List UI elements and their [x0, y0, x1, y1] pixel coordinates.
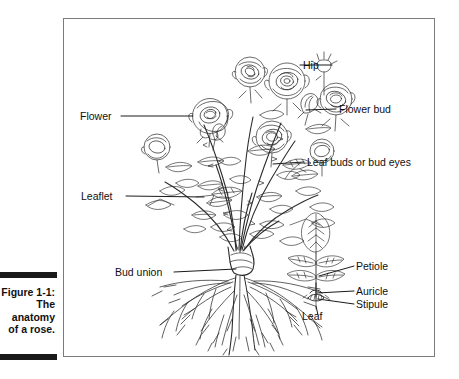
label-leaf: Leaf — [302, 310, 322, 322]
label-stipule: Stipule — [356, 298, 388, 310]
label-flower: Flower — [80, 110, 112, 122]
leaf-detail-inset — [287, 213, 345, 309]
label-hip: Hip — [303, 59, 319, 71]
label-auricle: Auricle — [356, 285, 388, 297]
figure-caption: Figure 1-1: The anatomy of a rose. — [0, 286, 55, 335]
caption-rule-bottom — [0, 354, 57, 360]
caption-rule-top — [0, 272, 57, 278]
bud-union — [228, 246, 254, 275]
figure-caption-block — [0, 272, 57, 278]
label-leaf-buds: Leaf buds or bud eyes — [307, 156, 411, 168]
label-flower-bud: Flower bud — [339, 103, 391, 115]
flower-top-left — [232, 57, 267, 103]
figure-caption-body: The anatomy of a rose. — [0, 298, 55, 335]
label-leaflet: Leaflet — [81, 190, 113, 202]
flower-center-lower — [252, 121, 291, 167]
flower-left — [189, 99, 233, 148]
figure-page: Figure 1-1: The anatomy of a rose. — [0, 0, 459, 379]
label-petiole: Petiole — [356, 260, 388, 272]
figure-caption-title: Figure 1-1: — [0, 286, 55, 298]
figure-frame: Hip Flower bud Leaf buds or bud eyes Flo… — [63, 18, 435, 357]
leaflet-cluster — [196, 181, 242, 207]
label-bud-union: Bud union — [115, 266, 162, 278]
